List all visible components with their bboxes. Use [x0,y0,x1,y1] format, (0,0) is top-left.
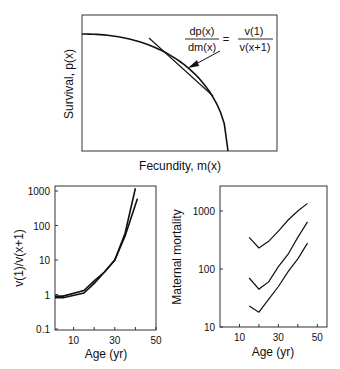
y-tick-label: 10 [204,322,216,333]
rhs-numerator: v(1) [245,25,264,37]
x-tick-label: 50 [150,335,162,346]
y-tick-label: 1000 [193,206,216,217]
y-axis-label: Maternal mortality [170,209,184,304]
mortality-chart: 101001000103050 Age (yr) Maternal mortal… [170,186,327,359]
figure: dp(x) dm(x) = v(1) v(x+1) Fecundity, m(x… [0,0,340,369]
series-line [55,199,137,298]
x-tick-label: 50 [312,332,324,343]
x-tick-label: 30 [109,335,121,346]
x-tick-label: 10 [68,335,80,346]
y-axis-label: v(1)/v(x+1) [12,229,26,287]
x-axis-label: Fecundity, m(x) [139,159,221,173]
y-tick-label: 0.1 [36,324,50,335]
x-tick-label: 10 [234,332,246,343]
arrow-head-icon [188,60,199,68]
lhs-numerator: dp(x) [189,25,214,37]
x-axis-label: Age (yr) [85,347,128,361]
mortality-plot-frame [220,186,327,327]
x-tick-label: 30 [273,332,285,343]
series-line [249,243,307,312]
lhs-denominator: dm(x) [188,41,216,53]
x-axis-label: Age (yr) [252,345,295,359]
y-tick-label: 10 [39,255,51,266]
series-line [249,203,307,248]
vratio-chart: 0.11101001000103050 Age (yr) v(1)/v(x+1) [12,186,162,361]
rhs-denominator: v(x+1) [240,41,271,53]
series-line [55,188,135,296]
y-tick-label: 1000 [28,186,51,197]
tradeoff-chart: dp(x) dm(x) = v(1) v(x+1) Fecundity, m(x… [62,15,277,173]
equals-sign: = [223,33,229,45]
y-tick-label: 100 [198,264,215,275]
vratio-plot-frame [55,186,156,330]
y-tick-label: 100 [33,221,50,232]
y-axis-label: Survival, p(x) [62,49,76,119]
y-tick-label: 1 [44,290,50,301]
